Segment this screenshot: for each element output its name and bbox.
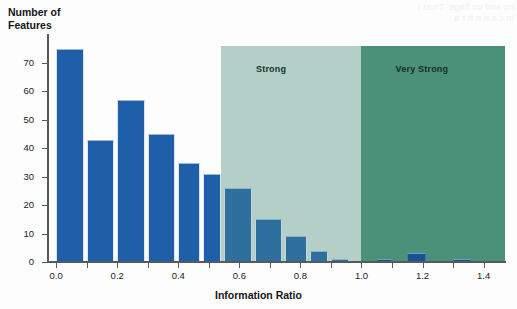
x-tick	[87, 262, 88, 268]
bar	[148, 134, 175, 262]
x-tick-label: 1.2	[403, 270, 443, 281]
y-tick	[42, 205, 48, 206]
plot-area: Strong Very Strong	[47, 30, 505, 262]
y-tick	[42, 91, 48, 92]
bar	[87, 140, 114, 262]
region-label-very-strong: Very Strong	[396, 64, 449, 74]
x-tick	[423, 262, 424, 268]
bleed-through-text: nu and ou flags: Trust i m c s e n h r a	[336, 2, 514, 24]
x-tick	[331, 262, 332, 268]
y-tick	[42, 234, 48, 235]
y-tick-label: 60	[8, 85, 34, 96]
x-tick	[209, 262, 210, 268]
x-tick	[484, 262, 485, 268]
bar	[203, 174, 221, 262]
y-tick	[42, 63, 48, 64]
x-tick-label: 0.4	[158, 270, 198, 281]
bar	[285, 236, 306, 262]
y-tick-label: 40	[8, 142, 34, 153]
region-label-strong: Strong	[256, 64, 286, 74]
bar	[255, 219, 282, 262]
y-tick	[42, 148, 48, 149]
x-tick-label: 0.0	[36, 270, 76, 281]
x-tick-label: 0.6	[219, 270, 259, 281]
x-tick-label: 1.0	[341, 270, 381, 281]
x-tick	[300, 262, 301, 268]
x-tick-label: 0.8	[280, 270, 320, 281]
x-tick-label: 1.4	[464, 270, 504, 281]
x-tick-label: 0.2	[97, 270, 137, 281]
x-tick	[178, 262, 179, 268]
x-tick	[270, 262, 271, 268]
x-tick	[239, 262, 240, 268]
x-tick	[148, 262, 149, 268]
bar	[224, 188, 251, 262]
y-tick	[42, 177, 48, 178]
y-axis-title: Number of Features	[8, 6, 61, 32]
y-tick-label: 30	[8, 171, 34, 182]
x-tick	[361, 262, 362, 268]
x-tick	[392, 262, 393, 268]
histogram-figure: nu and ou flags: Trust i m c s e n h r a…	[0, 0, 517, 309]
bar	[117, 100, 144, 262]
x-tick	[56, 262, 57, 268]
x-tick	[453, 262, 454, 268]
y-tick	[42, 120, 48, 121]
bar	[56, 49, 83, 262]
x-tick	[117, 262, 118, 268]
y-tick-label: 50	[8, 114, 34, 125]
region-very-strong	[361, 46, 505, 262]
y-tick	[42, 262, 48, 263]
y-tick-label: 20	[8, 199, 34, 210]
x-axis-line	[47, 261, 506, 263]
y-tick-label: 70	[8, 57, 34, 68]
y-tick-label: 10	[8, 228, 34, 239]
bar	[178, 163, 199, 263]
x-axis-title: Information Ratio	[0, 289, 517, 301]
y-tick-label: 0	[8, 256, 34, 267]
